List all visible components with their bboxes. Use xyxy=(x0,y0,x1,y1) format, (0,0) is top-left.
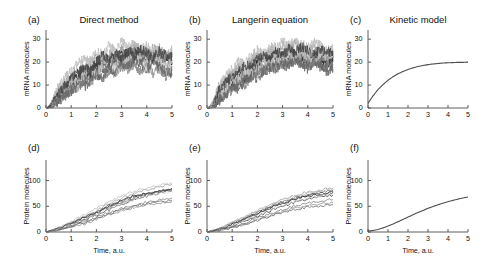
x-tick-label: 5 xyxy=(166,234,178,243)
y-tick-label: 10 xyxy=(194,80,202,89)
x-tick-label: 1 xyxy=(65,110,77,119)
trajectory-run-10 xyxy=(46,188,172,232)
y-tick-label: 30 xyxy=(33,34,41,43)
x-tick-label: 0 xyxy=(362,110,374,119)
y-tick-label: 0 xyxy=(198,103,202,112)
panel-e-ylabel: Protein molecules xyxy=(183,167,192,224)
trajectory-run-1 xyxy=(46,47,172,108)
trajectory-run-2 xyxy=(46,190,172,232)
axis-spines xyxy=(368,30,468,108)
trajectory-run-1 xyxy=(207,192,333,232)
panel-d-plot xyxy=(0,0,482,258)
y-tick-label: 10 xyxy=(355,80,363,89)
x-tick-label: 2 xyxy=(402,234,414,243)
axis-spines xyxy=(207,30,333,108)
panel-a-ylabel: mRNA molecules xyxy=(22,41,31,96)
trajectory-run-7 xyxy=(207,38,333,108)
trajectory-run-10 xyxy=(207,43,333,108)
trajectory-run-5 xyxy=(207,39,333,108)
y-tick-label: 30 xyxy=(355,34,363,43)
trajectory-run-9 xyxy=(46,200,172,232)
panel-letter-e: (e) xyxy=(189,142,201,153)
x-tick-label: 1 xyxy=(382,110,394,119)
panel-e-xlabel: Time, a.u. xyxy=(207,246,333,255)
trajectory-run-5 xyxy=(46,42,172,108)
y-tick-label: 30 xyxy=(194,34,202,43)
x-tick-label: 5 xyxy=(462,110,474,119)
y-tick-label: 20 xyxy=(355,57,363,66)
trajectory-run-3 xyxy=(46,190,172,232)
x-tick-label: 4 xyxy=(302,234,314,243)
trajectory-run-6 xyxy=(207,51,333,108)
trajectory-run-2 xyxy=(207,194,333,232)
x-tick-label: 4 xyxy=(141,110,153,119)
panel-title-c: Kinetic model xyxy=(348,14,482,25)
panel-title-b: Langerin equation xyxy=(200,14,340,25)
trajectory-run-6 xyxy=(207,202,333,232)
panel-b-ylabel: mRNA molecules xyxy=(183,41,192,96)
panel-e-plot xyxy=(0,0,482,258)
trajectory-run-6 xyxy=(46,61,172,108)
trajectory-run-8 xyxy=(46,191,172,232)
x-tick-label: 1 xyxy=(65,234,77,243)
x-tick-label: 3 xyxy=(116,110,128,119)
x-tick-label: 2 xyxy=(402,110,414,119)
panel-f-plot xyxy=(0,0,482,258)
trajectory-run-8 xyxy=(207,194,333,232)
x-tick-label: 3 xyxy=(277,234,289,243)
y-tick-label: 0 xyxy=(198,227,202,236)
x-tick-label: 3 xyxy=(277,110,289,119)
trajectory-kinetic-protein xyxy=(368,197,468,231)
trajectory-run-7 xyxy=(46,183,172,232)
y-tick-label: 20 xyxy=(194,57,202,66)
panel-letter-b: (b) xyxy=(189,14,201,25)
x-tick-label: 2 xyxy=(251,110,263,119)
x-tick-label: 5 xyxy=(327,110,339,119)
trajectory-run-4 xyxy=(46,50,172,108)
trajectory-run-10 xyxy=(207,191,333,232)
panel-c-ylabel: mRNA molecules xyxy=(344,41,353,96)
x-tick-label: 1 xyxy=(226,234,238,243)
y-tick-label: 50 xyxy=(194,201,202,210)
panel-title-a: Direct method xyxy=(39,14,179,25)
trajectory-run-2 xyxy=(207,50,333,108)
x-tick-label: 2 xyxy=(90,234,102,243)
x-tick-label: 4 xyxy=(141,234,153,243)
trajectory-run-3 xyxy=(46,44,172,108)
trajectory-run-4 xyxy=(46,198,172,232)
x-tick-label: 3 xyxy=(422,110,434,119)
x-tick-label: 5 xyxy=(166,110,178,119)
trajectory-run-3 xyxy=(207,190,333,232)
panel-f-xlabel: Time, a.u. xyxy=(368,246,468,255)
x-tick-label: 4 xyxy=(442,110,454,119)
axis-spines xyxy=(207,160,333,232)
x-tick-label: 0 xyxy=(40,110,52,119)
x-tick-label: 3 xyxy=(422,234,434,243)
y-tick-label: 50 xyxy=(355,201,363,210)
y-tick-label: 50 xyxy=(33,201,41,210)
axis-spines xyxy=(368,160,468,232)
x-tick-label: 5 xyxy=(462,234,474,243)
trajectory-run-5 xyxy=(207,188,333,232)
x-tick-label: 0 xyxy=(201,110,213,119)
x-tick-label: 4 xyxy=(442,234,454,243)
trajectory-run-6 xyxy=(46,202,172,232)
axis-spines xyxy=(46,30,172,108)
panel-d-xlabel: Time, a.u. xyxy=(46,246,172,255)
trajectory-run-4 xyxy=(207,54,333,108)
trajectory-run-9 xyxy=(46,56,172,108)
trajectory-run-1 xyxy=(207,49,333,108)
trajectory-run-7 xyxy=(207,188,333,232)
panel-letter-a: (a) xyxy=(28,14,40,25)
figure-container: 0123450102030mRNA molecules0123450102030… xyxy=(0,0,482,258)
x-tick-label: 5 xyxy=(327,234,339,243)
trajectory-run-3 xyxy=(207,45,333,108)
trajectory-run-8 xyxy=(46,51,172,108)
x-tick-label: 3 xyxy=(116,234,128,243)
panel-a-plot xyxy=(0,0,482,258)
trajectory-run-4 xyxy=(207,199,333,232)
panel-d-ylabel: Protein molecules xyxy=(22,167,31,224)
trajectory-run-5 xyxy=(46,184,172,232)
x-tick-label: 1 xyxy=(226,110,238,119)
trajectory-run-9 xyxy=(207,204,333,232)
